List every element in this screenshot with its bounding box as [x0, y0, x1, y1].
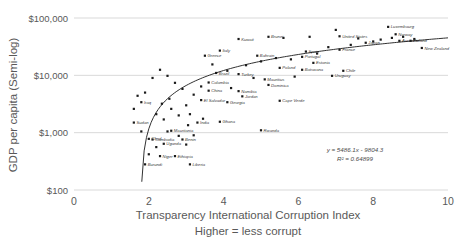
- point-label: Colombia: [211, 80, 229, 85]
- data-point: [185, 104, 187, 106]
- data-point: [204, 55, 206, 57]
- point-label: Niger: [163, 154, 174, 159]
- point-label: Kuwait: [241, 37, 254, 42]
- point-label: Liberia: [193, 162, 206, 167]
- data-point: [189, 113, 191, 115]
- data-point: [163, 118, 165, 120]
- point-label: Botswana: [305, 67, 324, 72]
- data-point: [136, 95, 138, 97]
- gridlines: [74, 18, 448, 190]
- data-point: [208, 90, 210, 92]
- data-point: [237, 90, 239, 92]
- data-point: [335, 29, 337, 31]
- point-label: Bahrain: [260, 53, 275, 58]
- data-point: [170, 130, 172, 132]
- y-tick-label: $100: [47, 185, 68, 196]
- point-label: Portugal: [305, 54, 322, 59]
- data-point: [365, 42, 367, 44]
- x-tick-label: 0: [71, 195, 77, 207]
- y-tick-label: $100,000: [28, 13, 68, 24]
- point-label: Luxembourg: [391, 24, 415, 29]
- data-point: [166, 130, 168, 132]
- point-label: Italy: [222, 48, 231, 53]
- point-label: Chile: [346, 68, 356, 73]
- data-point: [267, 36, 269, 38]
- data-point: [151, 77, 153, 79]
- y-tick-label: $10,000: [34, 70, 68, 81]
- r-squared-annotation: R² = 0.64899: [337, 155, 374, 162]
- y-tick-label: $1,000: [39, 127, 68, 138]
- data-point: [181, 138, 183, 140]
- data-point: [279, 100, 281, 102]
- point-label: Cape Verde: [282, 98, 305, 103]
- point-label: Mauritius: [267, 77, 285, 82]
- data-point: [174, 155, 176, 157]
- data-point: [301, 69, 303, 71]
- point-label: Uruguay: [335, 73, 352, 78]
- data-point: [327, 46, 329, 48]
- data-point: [256, 55, 258, 57]
- y-axis-ticks: $100$1,000$10,000$100,000: [28, 13, 68, 196]
- data-point: [398, 40, 400, 42]
- data-point: [331, 75, 333, 77]
- data-point: [309, 36, 311, 38]
- data-point: [237, 38, 239, 40]
- point-label: Dominica: [271, 83, 289, 88]
- data-point: [342, 70, 344, 72]
- point-label: El Salvador: [204, 98, 226, 103]
- data-point: [395, 33, 397, 35]
- point-label: Benin: [185, 137, 196, 142]
- point-label: Norway: [398, 32, 413, 37]
- point-label: Estonia: [316, 60, 331, 65]
- point-label: Burundi: [148, 162, 164, 167]
- data-point: [193, 94, 195, 96]
- data-point: [252, 77, 254, 79]
- y-axis-title: GDP per capita (Semi-log): [7, 38, 19, 173]
- data-point: [241, 95, 243, 97]
- data-point: [219, 121, 221, 123]
- data-point: [148, 153, 150, 155]
- data-point: [290, 58, 292, 60]
- data-point: [387, 26, 389, 28]
- point-label: Turkey: [241, 72, 254, 77]
- x-axis-subtitle: Higher = less corrupt: [195, 225, 302, 237]
- data-point: [166, 75, 168, 77]
- data-point: [159, 69, 161, 71]
- data-point: [421, 47, 423, 49]
- data-point: [301, 56, 303, 58]
- data-point: [237, 73, 239, 75]
- data-point: [144, 91, 146, 93]
- point-label: Brunei: [271, 34, 284, 39]
- data-point: [391, 37, 393, 39]
- data-point: [260, 129, 262, 131]
- data-point: [187, 124, 189, 126]
- data-point: [305, 50, 307, 52]
- point-label: India: [200, 120, 210, 125]
- point-label: Namibia: [241, 89, 257, 94]
- data-point: [178, 135, 180, 137]
- data-point: [350, 44, 352, 46]
- data-point: [226, 101, 228, 103]
- point-label: United States: [342, 34, 368, 39]
- data-point: [155, 146, 157, 148]
- data-point: [159, 155, 161, 157]
- data-point: [163, 143, 165, 145]
- point-label: Greece: [208, 53, 222, 58]
- point-label: Georgia: [230, 100, 246, 105]
- point-label: Uganda: [166, 141, 181, 146]
- data-point: [133, 108, 135, 110]
- data-point: [267, 84, 269, 86]
- point-label: Ghana: [222, 119, 235, 124]
- x-tick-label: 8: [370, 195, 376, 207]
- point-label: China: [211, 88, 223, 93]
- equation-annotation: y = 5486.1x - 9804.3: [326, 146, 384, 153]
- x-tick-label: 10: [442, 195, 454, 207]
- data-point: [196, 121, 198, 123]
- data-point: [174, 82, 176, 84]
- data-point: [133, 121, 135, 123]
- point-label: Poland: [282, 65, 296, 70]
- point-label: New Zealand: [424, 46, 449, 51]
- data-point: [208, 81, 210, 83]
- point-label: Ethiopia: [178, 154, 194, 159]
- data-point: [294, 76, 296, 78]
